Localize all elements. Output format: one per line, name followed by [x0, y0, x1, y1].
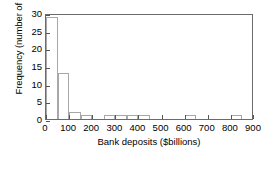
y-tick-mark [46, 15, 50, 16]
histogram-bar [58, 73, 70, 119]
y-axis-tick-labels: 051015202530 [18, 14, 42, 120]
y-tick-mark [46, 103, 50, 104]
x-tick-label: 700 [199, 122, 215, 133]
x-tick-label: 300 [106, 122, 122, 133]
x-tick-mark [162, 115, 163, 119]
x-tick-mark [69, 115, 70, 119]
y-tick-label: 20 [18, 45, 42, 55]
x-tick-mark [92, 115, 93, 119]
x-axis-title: Bank deposits ($billions) [45, 136, 253, 147]
y-tick-label: 15 [18, 62, 42, 72]
y-tick-mark [46, 68, 50, 69]
bar-series [46, 15, 252, 119]
histogram-bar [127, 115, 139, 119]
y-tick-mark [46, 33, 50, 34]
y-tick-label: 5 [18, 98, 42, 108]
x-tick-label: 0 [42, 122, 47, 133]
x-tick-label: 200 [83, 122, 99, 133]
histogram-figure: Frequency (number of banks) 051015202530… [0, 0, 266, 177]
x-tick-mark [253, 115, 254, 119]
y-tick-mark [46, 50, 50, 51]
x-tick-label: 900 [245, 122, 261, 133]
histogram-bar [104, 115, 116, 119]
x-tick-label: 400 [130, 122, 146, 133]
x-tick-mark [115, 115, 116, 119]
y-tick-label: 30 [18, 9, 42, 19]
y-tick-mark [46, 86, 50, 87]
y-tick-label: 0 [18, 115, 42, 125]
histogram-bar [138, 115, 150, 119]
x-tick-mark [185, 115, 186, 119]
histogram-bar [69, 112, 81, 119]
histogram-bar [185, 115, 197, 119]
y-tick-label: 10 [18, 80, 42, 90]
x-tick-label: 800 [222, 122, 238, 133]
histogram-bar [81, 115, 93, 119]
histogram-bar [231, 115, 243, 119]
x-tick-mark [231, 115, 232, 119]
plot-area [45, 14, 253, 120]
x-tick-label: 100 [60, 122, 76, 133]
y-tick-label: 25 [18, 27, 42, 37]
x-tick-label: 600 [176, 122, 192, 133]
histogram-bar [115, 115, 127, 119]
x-tick-label: 500 [153, 122, 169, 133]
x-tick-mark [138, 115, 139, 119]
x-axis-tick-labels: 0100200300400500600700800900 [45, 122, 253, 136]
x-tick-mark [46, 115, 47, 119]
x-tick-mark [208, 115, 209, 119]
